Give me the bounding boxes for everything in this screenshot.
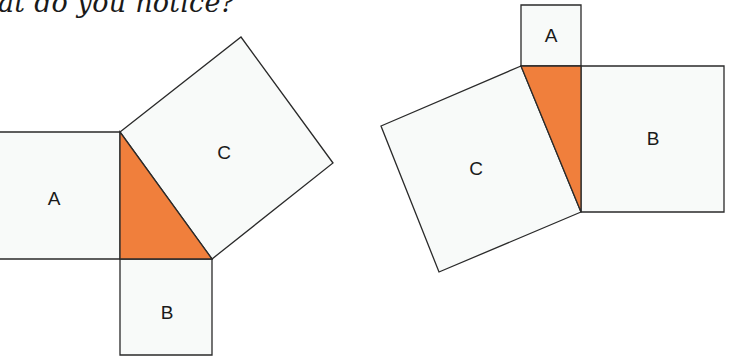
right-label-a: A: [545, 25, 558, 46]
pythagorean-diagram: A B C A B C: [0, 0, 730, 361]
left-figure: A B C: [0, 37, 333, 355]
left-label-b: B: [161, 302, 174, 323]
right-label-c: C: [469, 158, 483, 179]
right-label-b: B: [647, 128, 660, 149]
left-label-c: C: [217, 142, 231, 163]
left-label-a: A: [48, 188, 61, 209]
right-figure: A B C: [381, 5, 724, 272]
